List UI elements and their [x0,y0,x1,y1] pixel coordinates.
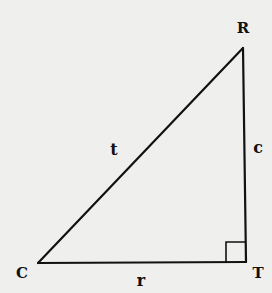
vertex-label-r: R [237,19,250,37]
vertex-label-t: T [252,264,264,282]
side-label-c: c [253,138,263,157]
side-r-horizontal-leg [38,262,246,263]
vertex-label-c: C [16,264,28,282]
side-label-t: t [110,140,118,159]
side-c-vertical-leg [243,48,246,262]
side-label-r: r [137,271,146,290]
triangle-diagram: R C T t c r [0,0,272,293]
right-angle-marker [226,242,246,262]
side-t-hypotenuse [38,48,243,263]
triangle-svg: R C T t c r [0,0,272,293]
